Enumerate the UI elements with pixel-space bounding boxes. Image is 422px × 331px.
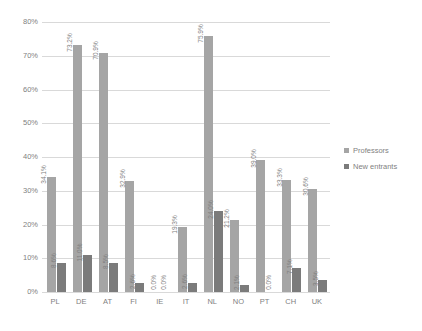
bar-label-wrap: 11.0% bbox=[81, 244, 88, 262]
y-axis-tick-label: 70% bbox=[4, 52, 38, 60]
bar-value-label: 7.1% bbox=[287, 259, 294, 274]
bar-nl-professors[interactable]: 75.9% bbox=[204, 36, 213, 292]
bar-uk-newentrants[interactable]: 3.5% bbox=[318, 280, 327, 292]
bar-nl-newentrants[interactable]: 24.0% bbox=[214, 211, 223, 292]
bar-label-wrap: 19.3% bbox=[176, 216, 183, 234]
bar-pt-professors[interactable]: 39.0% bbox=[256, 160, 265, 292]
x-axis-tick-label: IT bbox=[173, 298, 199, 306]
y-axis-tick-label: 0% bbox=[4, 288, 38, 296]
chart-legend: Professors New entrants bbox=[344, 146, 397, 178]
y-axis-tick-label: 20% bbox=[4, 221, 38, 229]
x-axis-tick-label: DE bbox=[68, 298, 94, 306]
bar-group: 39.0%0.0% bbox=[254, 22, 275, 292]
bar-label-wrap: 8.6% bbox=[55, 254, 62, 269]
bar-group: 73.2%11.0% bbox=[71, 22, 92, 292]
bar-it-newentrants[interactable]: 2.6% bbox=[188, 283, 197, 292]
bar-de-newentrants[interactable]: 11.0% bbox=[83, 255, 92, 292]
legend-item-new-entrants[interactable]: New entrants bbox=[344, 162, 397, 171]
bar-label-wrap: 39.0% bbox=[254, 149, 261, 167]
legend-swatch-icon bbox=[344, 148, 349, 153]
bar-label-wrap: 33.3% bbox=[280, 168, 287, 186]
bar-ch-newentrants[interactable]: 7.1% bbox=[292, 268, 301, 292]
bar-value-label: 33.3% bbox=[277, 168, 284, 186]
bar-chart: 34.1%8.6%73.2%11.0%70.9%8.5%32.9%2.6%0.0… bbox=[0, 0, 422, 331]
bar-value-label: 11.0% bbox=[78, 244, 85, 262]
y-axis-tick-label: 80% bbox=[4, 18, 38, 26]
bar-value-label: 70.9% bbox=[94, 42, 101, 60]
bar-no-newentrants[interactable]: 2.1% bbox=[240, 285, 249, 292]
bar-value-label: 73.2% bbox=[68, 34, 75, 52]
bar-value-label: 2.6% bbox=[130, 274, 137, 289]
bar-value-label: 0.0% bbox=[151, 275, 158, 290]
bar-value-label: 39.0% bbox=[251, 149, 258, 167]
legend-label: New entrants bbox=[353, 162, 397, 171]
bar-at-newentrants[interactable]: 8.5% bbox=[109, 263, 118, 292]
x-axis-tick-label: IE bbox=[147, 298, 173, 306]
bar-label-wrap: 8.5% bbox=[107, 254, 114, 269]
bar-value-label: 19.3% bbox=[172, 216, 179, 234]
bar-label-wrap: 7.1% bbox=[290, 259, 297, 274]
x-axis-tick-label: NO bbox=[225, 298, 251, 306]
bar-value-label: 2.6% bbox=[182, 274, 189, 289]
bar-label-wrap: 3.5% bbox=[316, 271, 323, 286]
bar-value-label: 3.5% bbox=[313, 271, 320, 286]
bar-value-label: 24.0% bbox=[208, 200, 215, 218]
bar-group: 33.3%7.1% bbox=[280, 22, 301, 292]
bar-group: 21.2%2.1% bbox=[228, 22, 249, 292]
bar-label-wrap: 24.0% bbox=[212, 200, 219, 218]
bar-pl-professors[interactable]: 34.1% bbox=[47, 177, 56, 292]
bar-group: 0.0%0.0% bbox=[149, 22, 170, 292]
bar-value-label: 8.5% bbox=[104, 254, 111, 269]
bar-label-wrap: 32.9% bbox=[123, 170, 130, 188]
bar-label-wrap: 2.1% bbox=[238, 276, 245, 291]
y-axis-tick-label: 10% bbox=[4, 254, 38, 262]
bar-value-label: 34.1% bbox=[41, 166, 48, 184]
gridline bbox=[42, 292, 330, 293]
bar-label-wrap: 2.6% bbox=[186, 274, 193, 289]
bar-ch-professors[interactable]: 33.3% bbox=[282, 180, 291, 292]
x-axis-tick-label: FI bbox=[121, 298, 147, 306]
bar-group: 30.6%3.5% bbox=[306, 22, 327, 292]
bar-group: 70.9%8.5% bbox=[97, 22, 118, 292]
bar-value-label: 8.6% bbox=[51, 254, 58, 269]
legend-label: Professors bbox=[353, 146, 389, 155]
bar-label-wrap: 70.9% bbox=[97, 42, 104, 60]
bar-value-label: 32.9% bbox=[120, 170, 127, 188]
bar-fi-newentrants[interactable]: 2.6% bbox=[135, 283, 144, 292]
bar-group: 19.3%2.6% bbox=[176, 22, 197, 292]
y-axis-tick-label: 60% bbox=[4, 86, 38, 94]
bar-label-wrap: 34.1% bbox=[45, 166, 52, 184]
x-axis-tick-label: NL bbox=[199, 298, 225, 306]
bar-group: 34.1%8.6% bbox=[45, 22, 66, 292]
bar-label-wrap: 75.9% bbox=[202, 25, 209, 43]
x-axis-tick-label: CH bbox=[278, 298, 304, 306]
bar-label-wrap: 30.6% bbox=[306, 178, 313, 196]
x-axis-tick-label: PL bbox=[42, 298, 68, 306]
bar-value-label: 75.9% bbox=[198, 25, 205, 43]
plot-area: 34.1%8.6%73.2%11.0%70.9%8.5%32.9%2.6%0.0… bbox=[42, 22, 330, 292]
y-axis-tick-label: 50% bbox=[4, 119, 38, 127]
x-axis-tick-label: UK bbox=[304, 298, 330, 306]
legend-item-professors[interactable]: Professors bbox=[344, 146, 397, 155]
bar-value-label: 0.0% bbox=[161, 275, 168, 290]
bar-pl-newentrants[interactable]: 8.6% bbox=[57, 263, 66, 292]
bar-label-wrap: 21.2% bbox=[228, 209, 235, 227]
y-axis-tick-label: 40% bbox=[4, 153, 38, 161]
bar-value-label: 0.0% bbox=[266, 275, 273, 290]
y-axis-tick-label: 30% bbox=[4, 187, 38, 195]
bar-value-label: 30.6% bbox=[303, 178, 310, 196]
bar-label-wrap: 73.2% bbox=[71, 34, 78, 52]
x-axis-tick-label: AT bbox=[94, 298, 120, 306]
x-axis-tick-label: PT bbox=[252, 298, 278, 306]
bar-label-wrap: 2.6% bbox=[133, 274, 140, 289]
bar-group: 75.9%24.0% bbox=[202, 22, 223, 292]
bar-group: 32.9%2.6% bbox=[123, 22, 144, 292]
bar-value-label: 21.2% bbox=[225, 209, 232, 227]
legend-swatch-icon bbox=[344, 164, 349, 169]
bar-value-label: 2.1% bbox=[235, 276, 242, 291]
